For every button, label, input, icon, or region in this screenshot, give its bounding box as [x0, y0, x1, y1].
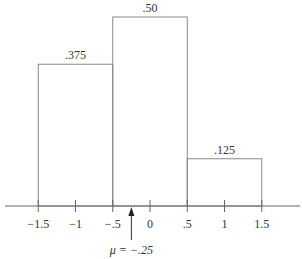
bar-value-label: .50: [143, 1, 158, 15]
histogram-bar: [113, 17, 188, 206]
histogram-chart: .375.50.125−1.5−1−.50.511.5μ = −.25: [0, 0, 302, 259]
histogram-bar: [38, 64, 113, 206]
x-tick-label: −.5: [105, 217, 121, 231]
x-tick-label: 1.5: [254, 217, 269, 231]
mean-annotation-label: μ = −.25: [109, 243, 153, 257]
histogram-bar: [187, 159, 262, 206]
bar-value-label: .375: [65, 48, 86, 62]
x-tick-label: .5: [183, 217, 192, 231]
arrow-up-icon: [128, 207, 134, 216]
x-tick-label: −1: [69, 217, 82, 231]
x-tick-label: −1.5: [27, 217, 49, 231]
x-tick-label: 0: [147, 217, 153, 231]
x-tick-label: 1: [222, 217, 228, 231]
bar-value-label: .125: [214, 143, 235, 157]
